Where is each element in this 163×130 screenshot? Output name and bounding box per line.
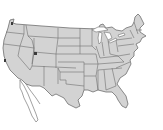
seattle-marker	[11, 22, 13, 25]
bay-area-marker	[4, 59, 6, 62]
us-map	[0, 0, 163, 130]
us-map-svg	[0, 0, 163, 130]
salt-lake-marker	[34, 52, 37, 55]
